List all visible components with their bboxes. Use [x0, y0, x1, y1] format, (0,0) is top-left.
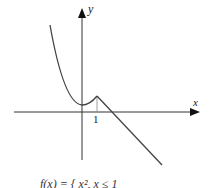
- tick-label-1: 1: [93, 113, 99, 125]
- linear-segment: [97, 96, 162, 165]
- x-axis-label: x: [193, 96, 198, 108]
- parabola-curve-lower: [50, 25, 97, 105]
- x-axis-arrow-icon: [190, 108, 200, 116]
- y-axis-arrow-icon: [78, 8, 86, 18]
- function-graph: [0, 0, 210, 188]
- y-axis-label: y: [88, 2, 93, 17]
- piecewise-formula: f(x) = { x², x ≤ 1: [40, 177, 117, 188]
